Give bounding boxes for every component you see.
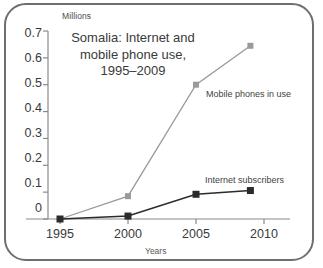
- chart-title-line-3: 1995–2009: [58, 63, 208, 80]
- y-tick-label-0.6: 0.6: [12, 51, 42, 65]
- y-tick-label-0.7: 0.7: [12, 26, 42, 40]
- x-tick-label-2000: 2000: [105, 227, 151, 241]
- y-axis-unit-label: Millions: [62, 11, 91, 21]
- x-tick-label-2005: 2005: [173, 227, 219, 241]
- chart-title-line-2: mobile phone use,: [58, 47, 208, 64]
- x-tick-label-1995: 1995: [37, 227, 83, 241]
- chart-title-line-1: Somalia: Internet and: [58, 30, 208, 47]
- chart-title: Somalia: Internet and mobile phone use, …: [58, 30, 208, 80]
- chart-plot-area: Millions Somalia: Internet and mobile ph…: [6, 5, 316, 263]
- series-line-internet-subscribers: [60, 191, 250, 219]
- y-tick-label-0.3: 0.3: [12, 126, 42, 140]
- y-tick-label-0: 0: [12, 201, 42, 215]
- y-tick-label-0.2: 0.2: [12, 151, 42, 165]
- y-tick-label-0.5: 0.5: [12, 76, 42, 90]
- y-tick-label-0.4: 0.4: [12, 101, 42, 115]
- y-axis-ticks: [43, 31, 48, 219]
- x-axis-title: Years: [145, 246, 166, 256]
- y-tick-label-0.1: 0.1: [12, 176, 42, 190]
- chart-frame: Millions Somalia: Internet and mobile ph…: [4, 3, 314, 261]
- series-label-internet-subscribers: Internet subscribers: [205, 175, 284, 185]
- x-tick-label-2010: 2010: [241, 227, 287, 241]
- x-axis-ticks: [60, 219, 264, 224]
- series-label-mobile-phones: Mobile phones in use: [206, 89, 291, 99]
